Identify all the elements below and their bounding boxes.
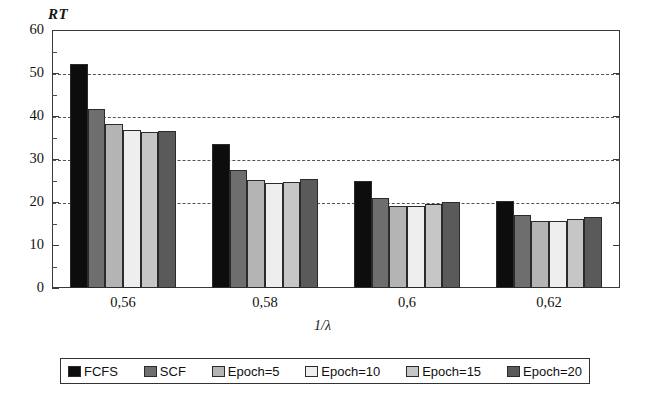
legend-label: Epoch=10 [321, 365, 380, 378]
bar [283, 182, 301, 288]
bar [531, 221, 549, 288]
bar-group [354, 30, 460, 288]
bar [158, 131, 176, 288]
y-tick-major [52, 288, 59, 289]
bar [354, 181, 372, 289]
x-axis-title: 1/λ [0, 318, 645, 334]
bar [442, 202, 460, 288]
y-tick-label: 50 [2, 64, 44, 81]
bar-groups [52, 30, 620, 288]
legend-item[interactable]: Epoch=20 [507, 365, 582, 378]
legend-swatch-icon [144, 366, 157, 377]
bar-chart-figure: RT 0102030405060 0,560,580,60,62 1/λ FCF… [0, 0, 645, 404]
legend-label: Epoch=20 [523, 365, 582, 378]
legend-swatch-icon [406, 366, 419, 377]
bar [212, 144, 230, 288]
bar [514, 215, 532, 288]
bar [372, 198, 390, 288]
bar [230, 170, 248, 288]
legend-item[interactable]: FCFS [68, 365, 118, 378]
legend-swatch-icon [68, 366, 81, 377]
chart-legend: FCFSSCFEpoch=5Epoch=10Epoch=15Epoch=20 [60, 358, 590, 384]
bar [88, 109, 106, 288]
y-tick-label: 60 [2, 21, 44, 38]
bar [105, 124, 123, 288]
legend-label: Epoch=15 [422, 365, 481, 378]
legend-swatch-icon [305, 366, 318, 377]
y-tick-label: 0 [2, 279, 44, 296]
y-tick-label: 10 [2, 236, 44, 253]
bar [407, 206, 425, 288]
legend-item[interactable]: SCF [144, 365, 186, 378]
y-axis-title: RT [48, 6, 68, 23]
legend-item[interactable]: Epoch=15 [406, 365, 481, 378]
legend-label: Epoch=5 [228, 365, 280, 378]
bar [567, 219, 585, 288]
legend-swatch-icon [212, 366, 225, 377]
x-tick-label: 0,62 [489, 294, 609, 311]
bar [496, 201, 514, 288]
bar [425, 204, 443, 288]
x-tick-label: 0,56 [63, 294, 183, 311]
y-tick-label: 40 [2, 107, 44, 124]
y-tick-label: 20 [2, 193, 44, 210]
bar-group [212, 30, 318, 288]
legend-swatch-icon [507, 366, 520, 377]
legend-label: FCFS [84, 365, 118, 378]
bar-group [70, 30, 176, 288]
bar [389, 206, 407, 288]
bar-group [496, 30, 602, 288]
legend-item[interactable]: Epoch=5 [212, 365, 280, 378]
bar [584, 217, 602, 288]
y-tick-label: 30 [2, 150, 44, 167]
bar [549, 221, 567, 288]
bar [300, 179, 318, 288]
bar [247, 180, 265, 288]
bar [123, 130, 141, 288]
x-tick-label: 0,6 [347, 294, 467, 311]
legend-item[interactable]: Epoch=10 [305, 365, 380, 378]
x-tick-label: 0,58 [205, 294, 325, 311]
bar [265, 183, 283, 288]
legend-label: SCF [160, 365, 186, 378]
bar [70, 64, 88, 288]
bar [141, 132, 159, 288]
